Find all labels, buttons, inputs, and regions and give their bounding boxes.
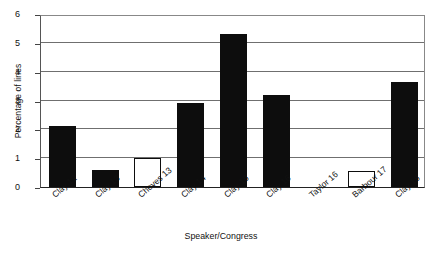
x-axis-tick-labels: Clay 12Clay 13Cheves 13Clay 14Clay 15Cla… <box>0 0 442 254</box>
bar-chart: Percentage of lines 0123456 Clay 12Clay … <box>0 0 442 254</box>
x-axis-title: Speaker/Congress <box>0 231 442 241</box>
